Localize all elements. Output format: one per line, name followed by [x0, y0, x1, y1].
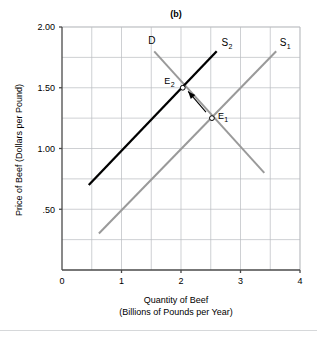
curve-label-d: D [148, 35, 155, 46]
curve-label-s2: S2 [221, 37, 232, 50]
point-e1 [210, 116, 215, 121]
curve-s1 [99, 51, 276, 233]
figure-panel-b: (b) 01234.501.001.502.00 E2E1 DS2S1 Quan… [0, 0, 317, 337]
point-label-e2: E2 [164, 76, 174, 88]
x-axis-subtitle: (Billions of Pounds per Year) [119, 307, 233, 317]
equilibrium-points: E2E1 [164, 76, 228, 123]
curve-labels: DS2S1 [148, 35, 291, 50]
y-tick-label: 1.50 [37, 83, 55, 93]
point-e2 [180, 85, 185, 90]
panel-title: (b) [170, 9, 182, 19]
curve-lines [89, 51, 276, 233]
x-tick-label: 0 [59, 276, 64, 286]
x-tick-label: 1 [119, 276, 124, 286]
supply-demand-chart: (b) 01234.501.001.502.00 E2E1 DS2S1 Quan… [0, 0, 317, 337]
y-tick-label: .50 [42, 205, 55, 215]
annotations [188, 91, 206, 112]
tick-labels: 01234.501.001.502.00 [37, 22, 302, 286]
x-tick-label: 3 [238, 276, 243, 286]
y-tick-label: 2.00 [37, 22, 55, 32]
curve-label-s1: S1 [280, 37, 291, 50]
point-label-e1: E1 [218, 111, 228, 123]
curve-d [154, 51, 264, 173]
x-tick-label: 4 [297, 276, 302, 286]
x-tick-label: 2 [178, 276, 183, 286]
y-tick-label: 1.00 [37, 144, 55, 154]
footer-divider [0, 330, 317, 331]
y-axis-title: Price of Beef (Dollars per Pound) [14, 84, 24, 216]
x-axis-title: Quantity of Beef [144, 295, 209, 305]
